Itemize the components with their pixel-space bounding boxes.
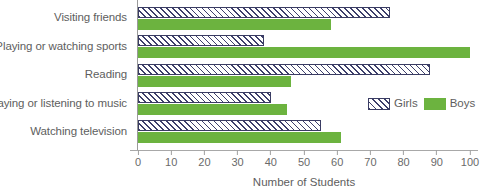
tick-label: 0 [135, 157, 141, 168]
bar-girls-playing-or-listening-to-music [138, 92, 271, 103]
tick-mark [403, 150, 404, 155]
x-tick-70: 70 [364, 150, 376, 168]
x-tick-50: 50 [298, 150, 310, 168]
tick-mark [337, 150, 338, 155]
tick-label: 50 [298, 157, 310, 168]
legend-item-boys: Boys [424, 98, 476, 110]
tick-label: 80 [397, 157, 409, 168]
plot-area: 0102030405060708090100 [138, 4, 470, 146]
bar-girls-visiting-friends [138, 7, 390, 18]
x-tick-10: 10 [165, 150, 177, 168]
tick-mark [436, 150, 437, 155]
category-label-watching-television: Watching television [0, 118, 132, 146]
tick-mark [171, 150, 172, 155]
bar-boys-watching-television [138, 132, 341, 143]
bar-boys-playing-or-listening-to-music [138, 104, 287, 115]
x-axis-title: Number of Students [138, 177, 470, 189]
category-label-visiting-friends: Visiting friends [0, 4, 132, 32]
category-label-reading: Reading [0, 61, 132, 89]
x-tick-90: 90 [431, 150, 443, 168]
x-tick-100: 100 [461, 150, 479, 168]
legend-label-girls: Girls [394, 98, 418, 110]
x-tick-60: 60 [331, 150, 343, 168]
tick-label: 40 [265, 157, 277, 168]
tick-label: 30 [231, 157, 243, 168]
tick-mark [138, 150, 139, 155]
tick-mark [370, 150, 371, 155]
tick-label: 60 [331, 157, 343, 168]
category-axis-labels: Visiting friends Playing or watching spo… [0, 4, 132, 146]
tick-mark [237, 150, 238, 155]
tick-label: 100 [461, 157, 479, 168]
bar-rows [138, 4, 470, 146]
category-label-playing-or-watching-sports: Playing or watching sports [0, 32, 132, 60]
bar-girls-watching-television [138, 120, 321, 131]
tick-label: 10 [165, 157, 177, 168]
x-tick-20: 20 [198, 150, 210, 168]
tick-label: 90 [431, 157, 443, 168]
bar-group-playing-or-watching-sports [138, 32, 470, 60]
bar-group-reading [138, 61, 470, 89]
tick-label: 70 [364, 157, 376, 168]
bar-chart: Visiting friends Playing or watching spo… [0, 0, 497, 194]
x-tick-40: 40 [265, 150, 277, 168]
category-label-playing-or-listening-to-music: Playing or listening to music [0, 89, 132, 117]
legend-item-girls: Girls [368, 98, 418, 110]
hatched-swatch-icon [368, 98, 390, 110]
bar-group-visiting-friends [138, 4, 470, 32]
tick-mark [304, 150, 305, 155]
green-swatch-icon [424, 98, 446, 110]
bar-boys-playing-or-watching-sports [138, 47, 470, 58]
tick-mark [469, 150, 470, 155]
bar-girls-playing-or-watching-sports [138, 35, 264, 46]
x-tick-80: 80 [397, 150, 409, 168]
bar-group-watching-television [138, 118, 470, 146]
bar-boys-reading [138, 76, 291, 87]
legend: Girls Boys [367, 96, 476, 112]
x-tick-0: 0 [135, 150, 141, 168]
tick-mark [204, 150, 205, 155]
x-tick-30: 30 [231, 150, 243, 168]
bar-boys-visiting-friends [138, 19, 331, 30]
tick-mark [270, 150, 271, 155]
legend-label-boys: Boys [450, 98, 476, 110]
bar-girls-reading [138, 64, 430, 75]
tick-label: 20 [198, 157, 210, 168]
